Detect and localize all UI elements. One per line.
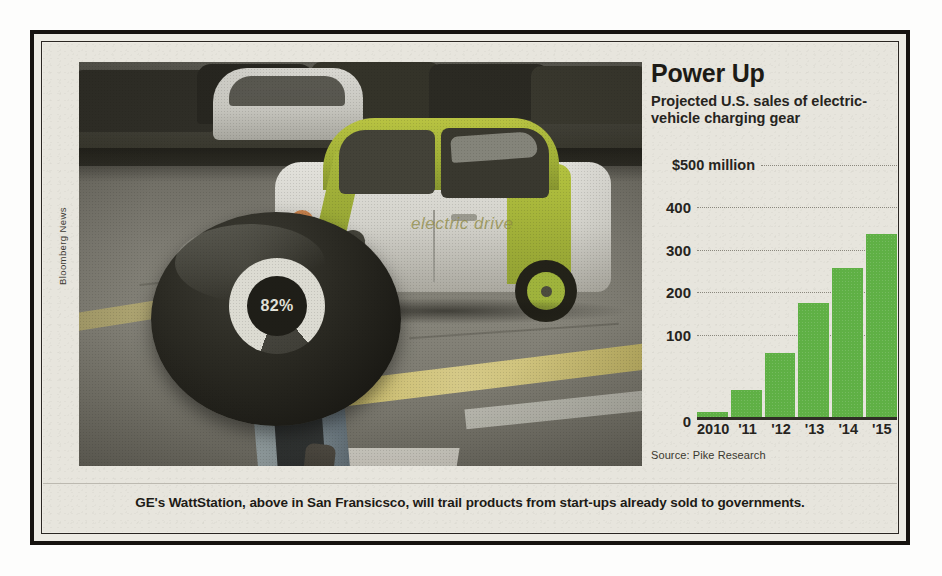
clipping-content: electric drive [43,43,897,481]
chart-x-axis-labels: 2010'11'12'13'14'15 [697,421,897,437]
chart-x-tick-label: 2010 [697,421,729,437]
clipping-paper: electric drive [43,43,897,532]
chart-title: Power Up [651,61,897,86]
photo-caption: GE's WattStation, above in San Fransicsc… [43,495,897,510]
chart-bar-13 [798,303,829,417]
chart-x-tick-label: '13 [799,421,830,437]
chart-x-tick-label: '15 [866,421,897,437]
chart-power-up: Power Up Projected U.S. sales of electri… [651,61,897,481]
chart-x-tick-label: '11 [732,421,763,437]
chart-x-tick-label: '12 [766,421,797,437]
photo-charging-station: electric drive [79,62,642,466]
chart-bars [697,205,897,417]
chart-y-tick-label: 400 [651,199,691,216]
chart-y-tick-label: $500 million [651,157,755,173]
chart-plot-area: $500 million400300200100 [651,165,897,417]
caption-divider [43,483,897,484]
chart-y-tick-zero: 0 [651,413,691,430]
chart-gridline [761,165,897,166]
car-window-front [339,130,435,194]
chart-subtitle: Projected U.S. sales of electric-vehicle… [651,93,889,128]
chart-y-tick-label: 100 [651,326,691,343]
chart-bar-12 [765,353,796,417]
charge-gauge-center: 82% [247,276,307,336]
car-decal-text: electric drive [411,214,561,236]
charge-percent-label: 82% [261,297,294,315]
photo-credit: Bloomberg News [57,125,71,285]
chart-y-tick-label: 200 [651,284,691,301]
car-hub [541,286,552,297]
chart-bar-14 [832,268,863,417]
chart-source: Source: Pike Research [651,449,766,461]
newspaper-clipping-page: electric drive [0,0,942,576]
background-car [531,66,642,124]
chart-y-gridline-row: $500 million [651,165,897,166]
background-car [79,70,213,132]
chart-bar-11 [731,390,762,417]
background-white-car-window [229,76,345,106]
chart-x-tick-label: '14 [833,421,864,437]
chart-bar-15 [866,234,897,417]
chart-y-tick-label: 300 [651,241,691,258]
chart-baseline [697,417,897,420]
clipping-border-outer: electric drive [30,30,910,545]
